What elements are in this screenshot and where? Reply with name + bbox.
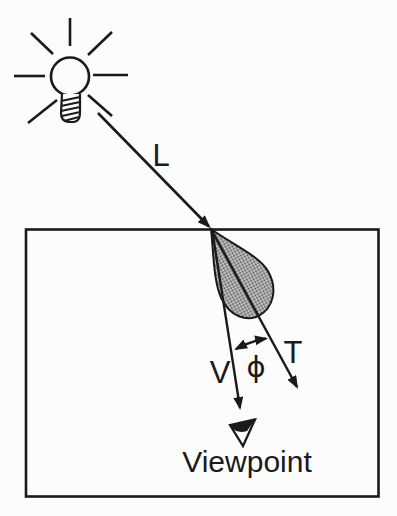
figure-canvas: L T V ϕ Viewpoint [0, 0, 397, 516]
transmitted-ray-label: T [284, 335, 303, 370]
light-ray-up-right [88, 32, 112, 55]
light-ray-down-left [28, 100, 57, 123]
bulb-globe [51, 58, 89, 96]
incident-ray-label: L [152, 138, 169, 173]
light-bulb-icon [14, 18, 128, 123]
light-ray-up-left [31, 33, 53, 54]
light-ray-down-right [88, 95, 112, 116]
view-ray-label: V [210, 355, 231, 390]
angle-label: ϕ [246, 350, 265, 384]
transmission-diagram: L T V ϕ Viewpoint [0, 0, 397, 516]
viewpoint-label: Viewpoint [182, 445, 312, 478]
